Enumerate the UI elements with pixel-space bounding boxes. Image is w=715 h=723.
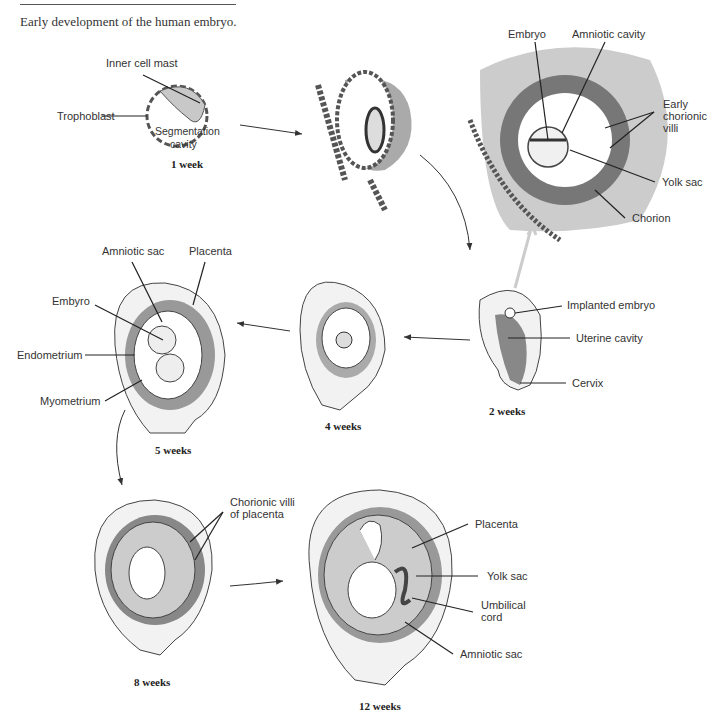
label-chorion: Chorion bbox=[632, 212, 671, 225]
stage-label-8-weeks: 8 weeks bbox=[134, 676, 170, 688]
uterus-12-weeks bbox=[309, 490, 452, 685]
implantation-stage bbox=[318, 72, 412, 210]
label-embyro-5w: Embyro bbox=[52, 295, 90, 308]
stage-label-2-weeks: 2 weeks bbox=[489, 405, 525, 417]
label-trophoblast: Trophoblast bbox=[57, 110, 115, 123]
label-placenta-12w: Placenta bbox=[475, 518, 518, 531]
label-cervix: Cervix bbox=[572, 377, 603, 390]
label-inner-cell-mast: Inner cell mast bbox=[106, 57, 178, 70]
uterus-5-weeks bbox=[115, 283, 225, 433]
label-myometrium: Myometrium bbox=[40, 395, 101, 408]
label-yolk-sac-top: Yolk sac bbox=[662, 176, 703, 189]
stage-label-1-week: 1 week bbox=[171, 158, 203, 170]
label-uterine-cavity: Uterine cavity bbox=[576, 332, 643, 345]
stage-label-5-weeks: 5 weeks bbox=[155, 444, 191, 456]
stage-label-12-weeks: 12 weeks bbox=[359, 700, 401, 712]
uterus-8-weeks bbox=[95, 500, 212, 655]
label-segmentation: Segmentation bbox=[155, 125, 220, 138]
label-placenta-5w: Placenta bbox=[189, 245, 232, 258]
stage-label-4-weeks: 4 weeks bbox=[325, 420, 361, 432]
label-embryo: Embryo bbox=[508, 28, 546, 41]
label-amniotic-sac-5w: Amniotic sac bbox=[102, 245, 164, 258]
label-cord: cord bbox=[481, 611, 502, 624]
label-villi: villi bbox=[663, 122, 678, 135]
label-amniotic-sac-12w: Amniotic sac bbox=[460, 648, 522, 661]
embryo-development-diagram bbox=[0, 0, 715, 723]
label-cavity: cavity bbox=[170, 138, 197, 151]
label-endometrium: Endometrium bbox=[17, 349, 82, 362]
uterus-4-weeks bbox=[300, 282, 385, 410]
label-yolk-sac-12w: Yolk sac bbox=[487, 570, 528, 583]
label-amniotic-cavity: Amniotic cavity bbox=[572, 28, 645, 41]
uterus-2-weeks bbox=[479, 290, 541, 390]
label-implanted-embryo: Implanted embryo bbox=[567, 299, 655, 312]
label-of-placenta: of placenta bbox=[230, 508, 284, 521]
